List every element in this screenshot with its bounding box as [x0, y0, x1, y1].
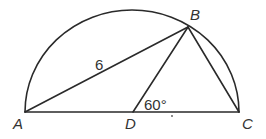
label-point-B: B	[190, 6, 200, 23]
label-angle-BDC: 60°	[144, 96, 167, 113]
label-point-D: D	[125, 115, 136, 132]
center-dot	[171, 115, 173, 117]
label-point-C: C	[242, 115, 253, 132]
semicircle-arc	[25, 10, 239, 112]
geometry-diagram: A B C D 6 60°	[0, 0, 266, 139]
label-AB-length: 6	[95, 56, 103, 73]
segment-BC	[188, 27, 239, 112]
label-point-A: A	[12, 115, 23, 132]
